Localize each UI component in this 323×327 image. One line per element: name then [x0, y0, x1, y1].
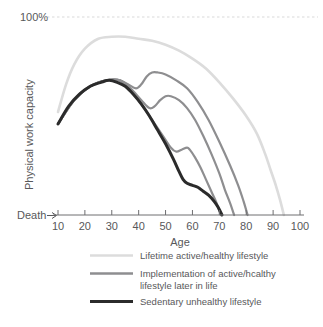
y-axis-top-label: 100%	[20, 11, 48, 23]
x-tick-label: 50	[159, 220, 171, 232]
series-group	[58, 37, 284, 215]
chart-figure: 100% Death Physical work capacity 102030…	[0, 0, 323, 327]
legend-label: Sedentary unhealthy lifestyle	[140, 296, 261, 307]
x-axis-title: Age	[170, 236, 190, 248]
legend-label: Lifetime active/healthy lifestyle	[140, 250, 268, 261]
legend-label: Implementation of active/hcalthy	[140, 268, 276, 279]
chart-legend: Lifetime active/healthy lifestyleImpleme…	[90, 250, 276, 307]
series-line	[58, 72, 248, 215]
x-tick-label: 20	[79, 220, 91, 232]
x-tick-label: 10	[52, 220, 64, 232]
series-line	[58, 37, 284, 215]
x-tick-label: 100	[291, 220, 309, 232]
y-axis-bottom-label: Death	[17, 209, 46, 221]
y-axis-title: Physical work capacity	[23, 79, 35, 190]
x-tick-label: 80	[240, 220, 252, 232]
x-tick-label: 70	[213, 220, 225, 232]
legend-label-line2: lifestyle later in life	[140, 280, 218, 291]
x-axis-ticks: 102030405060708090100	[52, 210, 309, 232]
x-tick-label: 90	[267, 220, 279, 232]
x-tick-label: 30	[106, 220, 118, 232]
x-tick-label: 40	[133, 220, 145, 232]
physical-work-capacity-line-chart: 100% Death Physical work capacity 102030…	[0, 0, 323, 327]
x-tick-label: 60	[186, 220, 198, 232]
